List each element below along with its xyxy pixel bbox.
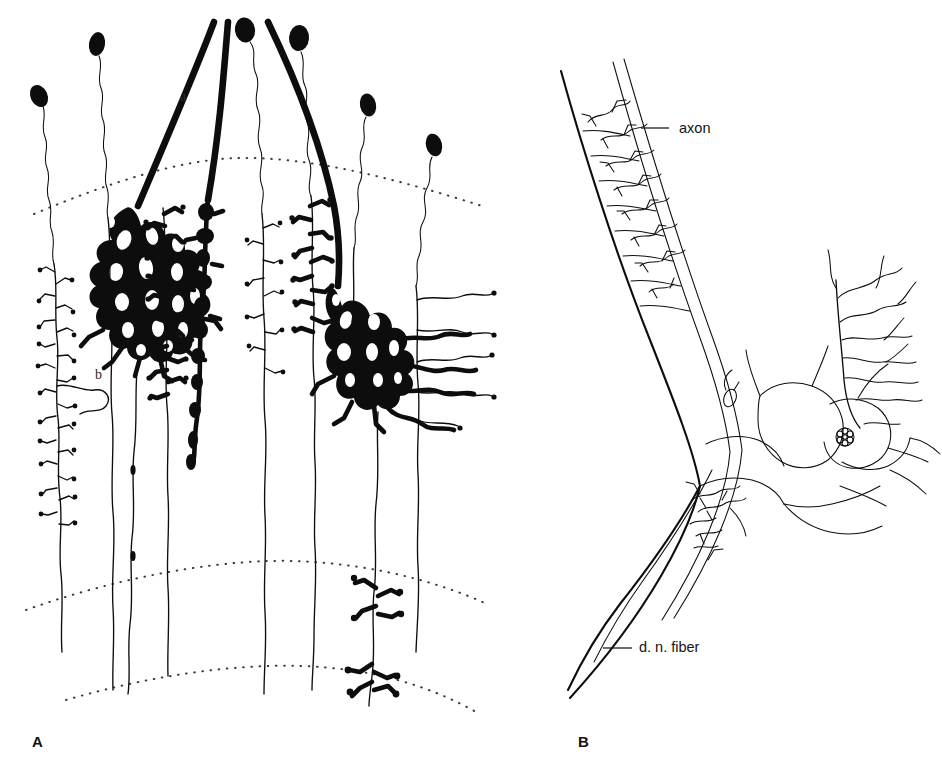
callout-a: a (180, 89, 187, 104)
callout-b: b (95, 367, 102, 382)
panel-letter-b: B (578, 733, 589, 750)
dn-fiber-label: d. n. fiber (639, 639, 700, 655)
panel-letter-a: A (32, 733, 43, 750)
figure-canvas: a b A (0, 0, 942, 767)
figure-root: a b A (0, 0, 942, 767)
axon-label: axon (679, 120, 710, 136)
